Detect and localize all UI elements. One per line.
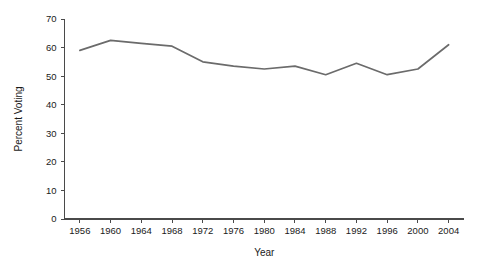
- y-tick-label: 70: [46, 13, 57, 24]
- x-tick-label: 1992: [346, 225, 367, 236]
- y-tick-label: 50: [46, 71, 57, 82]
- x-tick-label: 1988: [315, 225, 336, 236]
- y-tick-label: 60: [46, 42, 57, 53]
- y-tick-label: 20: [46, 156, 57, 167]
- y-axis-title: Percent Voting: [13, 86, 24, 151]
- x-tick-label: 1960: [100, 225, 121, 236]
- line-chart: 010203040506070 195619601964196819721976…: [0, 0, 483, 277]
- x-tick-label: 2000: [407, 225, 428, 236]
- y-tick-label: 0: [51, 213, 56, 224]
- x-tick-label: 1956: [69, 225, 90, 236]
- x-axis-title: Year: [254, 247, 275, 258]
- x-tick-label: 1976: [223, 225, 244, 236]
- y-tick-label: 30: [46, 128, 57, 139]
- y-tick-label: 10: [46, 185, 57, 196]
- x-tick-label: 1968: [161, 225, 182, 236]
- x-tick-label: 1964: [131, 225, 152, 236]
- data-series-line: [80, 40, 449, 74]
- x-tick-label: 2004: [438, 225, 459, 236]
- y-axis-ticks: 010203040506070: [46, 13, 65, 224]
- y-tick-label: 40: [46, 99, 57, 110]
- chart-container: 010203040506070 195619601964196819721976…: [0, 0, 483, 277]
- x-axis-ticks: 1956196019641968197219761980198419881992…: [69, 219, 459, 236]
- x-tick-label: 1972: [192, 225, 213, 236]
- x-tick-label: 1980: [254, 225, 275, 236]
- x-tick-label: 1996: [377, 225, 398, 236]
- x-tick-label: 1984: [284, 225, 305, 236]
